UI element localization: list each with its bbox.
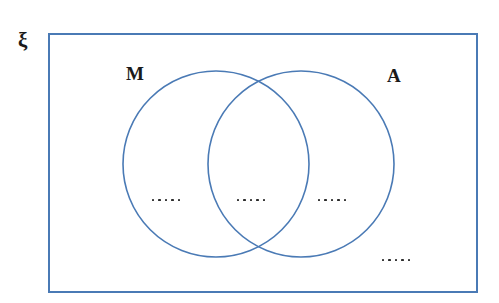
- region-dot: [171, 199, 173, 201]
- region-dot: [256, 199, 258, 201]
- region-dot: [243, 199, 245, 201]
- universal-set-label: ξ: [18, 30, 27, 51]
- set-label-m: M: [126, 64, 144, 83]
- region-dot: [263, 199, 265, 201]
- region-dots-both: [237, 197, 265, 203]
- venn-diagram-svg: [0, 0, 499, 303]
- region-dot: [337, 199, 339, 201]
- region-dots-a-only: [318, 197, 346, 203]
- region-dot: [178, 199, 180, 201]
- region-dot: [395, 259, 397, 261]
- region-dot: [401, 259, 403, 261]
- universal-set-rectangle: [49, 34, 477, 292]
- region-dot: [388, 259, 390, 261]
- region-dot: [158, 199, 160, 201]
- set-label-a: A: [387, 66, 401, 85]
- region-dots-m-only: [152, 197, 180, 203]
- venn-diagram-canvas: ξ M A: [0, 0, 499, 303]
- region-dot: [324, 199, 326, 201]
- region-dot: [382, 259, 384, 261]
- set-circle-m: [123, 71, 309, 257]
- region-dot: [165, 199, 167, 201]
- region-dot: [344, 199, 346, 201]
- region-dot: [250, 199, 252, 201]
- region-dot: [237, 199, 239, 201]
- region-dot: [152, 199, 154, 201]
- set-circle-a: [208, 71, 394, 257]
- region-dots-neither: [382, 257, 410, 263]
- region-dot: [331, 199, 333, 201]
- region-dot: [408, 259, 410, 261]
- region-dot: [318, 199, 320, 201]
